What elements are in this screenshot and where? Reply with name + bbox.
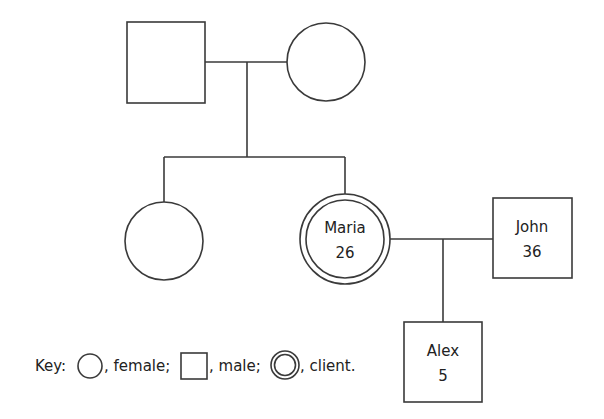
john-square [493, 198, 572, 278]
alex-square [404, 322, 482, 402]
genogram-diagram: Maria 26 John 36 Alex 5 Key: , female; ,… [0, 0, 604, 419]
legend-female-label: , female; [104, 357, 170, 375]
sister-circle [125, 202, 203, 280]
grandfather-square [127, 22, 205, 103]
legend-female-icon [78, 354, 102, 378]
legend-client-inner-icon [275, 355, 296, 376]
maria-age: 26 [335, 244, 354, 262]
maria-name: Maria [324, 219, 366, 237]
john-age: 36 [522, 243, 541, 261]
legend-male-icon [181, 353, 207, 379]
alex-age: 5 [438, 367, 448, 385]
legend-prefix: Key: [35, 357, 66, 375]
john-name: John [515, 218, 549, 236]
alex-name: Alex [427, 342, 459, 360]
legend-client-label: , client. [300, 357, 356, 375]
legend-male-label: , male; [209, 357, 261, 375]
maria-inner-circle [306, 200, 384, 278]
grandmother-circle [287, 23, 365, 101]
legend: Key: , female; , male; , client. [35, 351, 356, 379]
